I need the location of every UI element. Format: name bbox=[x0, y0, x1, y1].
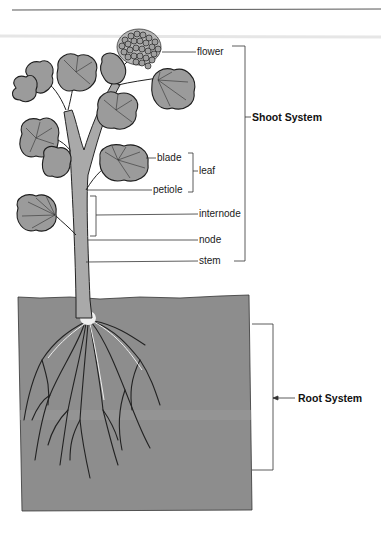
plant-diagram bbox=[0, 0, 381, 535]
label-shoot-system: Shoot System bbox=[252, 111, 322, 123]
label-petiole: petiole bbox=[153, 184, 182, 196]
shoot-bracket bbox=[232, 46, 245, 261]
leaf-right bbox=[152, 69, 195, 109]
label-leaf: leaf bbox=[199, 165, 215, 177]
label-blade: blade bbox=[157, 152, 181, 164]
label-internode: internode bbox=[199, 208, 241, 220]
soil-band bbox=[20, 410, 251, 420]
leaf-top-left-2 bbox=[13, 75, 38, 101]
label-stem: stem bbox=[199, 255, 221, 267]
label-root-system: Root System bbox=[298, 392, 362, 404]
internode-leader bbox=[96, 214, 198, 215]
label-node: node bbox=[199, 234, 221, 246]
label-flower: flower bbox=[197, 46, 224, 58]
leaf-left-small bbox=[42, 146, 71, 177]
top-rule bbox=[12, 9, 381, 10]
soil bbox=[18, 295, 252, 511]
internode-bracket bbox=[90, 196, 96, 236]
root-bracket bbox=[252, 324, 273, 470]
leaf-bracket bbox=[188, 153, 193, 192]
stem-leader bbox=[86, 261, 198, 262]
faint-rule bbox=[0, 36, 381, 37]
leaves bbox=[13, 53, 195, 231]
